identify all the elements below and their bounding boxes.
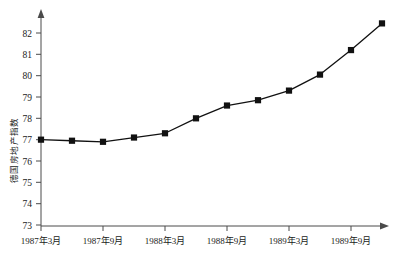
x-tick-label: 1989年3月 (269, 235, 310, 246)
y-tick-label: 75 (23, 178, 33, 188)
y-tick-label: 76 (23, 157, 33, 167)
data-point-marker (38, 137, 44, 143)
data-point-marker (379, 20, 385, 26)
y-tick-label: 74 (23, 199, 33, 209)
series-markers (38, 20, 385, 145)
data-point-marker (162, 130, 168, 136)
y-tick-label: 77 (23, 135, 33, 145)
y-tick-label: 80 (23, 71, 33, 81)
y-axis-title: 德国房地产指数 (9, 117, 19, 183)
data-point-marker (286, 88, 292, 94)
line-chart: 82 81 80 79 78 77 76 75 74 73 德国房地产指数 19… (0, 0, 398, 255)
y-tick-label: 81 (23, 50, 33, 60)
y-tick-label: 82 (23, 29, 33, 39)
y-tick-label: 73 (23, 221, 33, 231)
y-tick-marks (36, 33, 41, 225)
x-tick-marks (41, 226, 351, 231)
x-tick-label: 1988年3月 (145, 235, 186, 246)
y-tick-labels: 82 81 80 79 78 77 76 75 74 73 (23, 29, 33, 231)
x-tick-label: 1988年9月 (207, 235, 248, 246)
data-point-marker (317, 72, 323, 78)
data-point-marker (348, 47, 354, 53)
x-axis-arrow-icon (380, 223, 389, 230)
x-tick-labels: 1987年3月 1987年9月 1988年3月 1988年9月 1989年3月 … (21, 235, 372, 246)
x-tick-label: 1987年3月 (21, 235, 62, 246)
data-point-marker (224, 102, 230, 108)
data-point-marker (193, 115, 199, 121)
data-point-marker (100, 139, 106, 145)
chart-container: 82 81 80 79 78 77 76 75 74 73 德国房地产指数 19… (0, 0, 398, 255)
y-axis-arrow-icon (38, 9, 45, 18)
y-tick-label: 79 (23, 93, 33, 103)
data-point-marker (69, 138, 75, 144)
y-tick-label: 78 (23, 114, 33, 124)
series-line-german-real-estate-index (41, 23, 382, 141)
x-tick-label: 1987年9月 (83, 235, 124, 246)
x-tick-label: 1989年9月 (331, 235, 372, 246)
data-point-marker (255, 97, 261, 103)
data-point-marker (131, 134, 137, 140)
